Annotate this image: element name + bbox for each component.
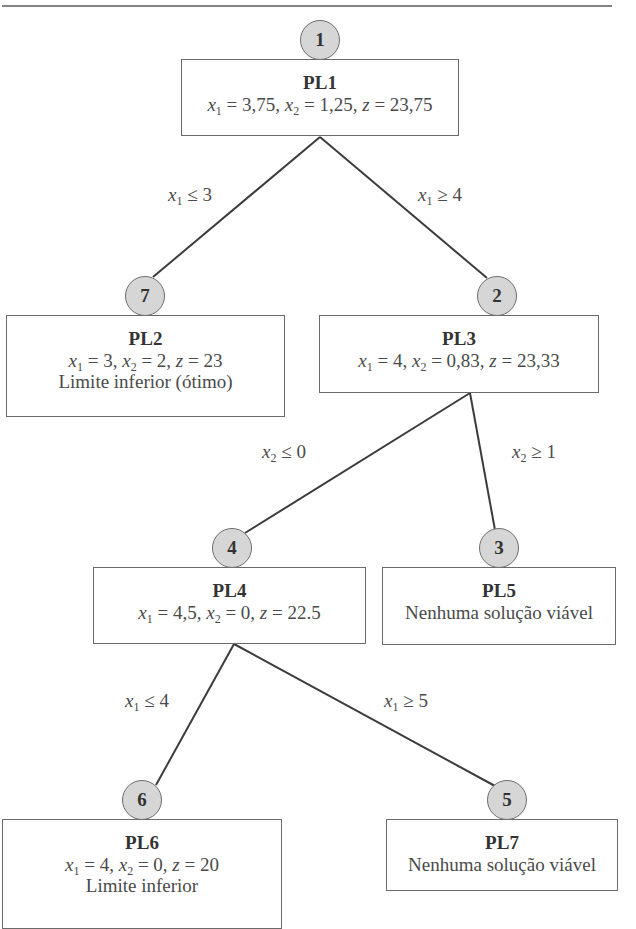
edge-op: ≤: [281, 441, 291, 462]
node-title: PL1: [182, 72, 458, 94]
order-badge-4: 4: [212, 528, 252, 568]
edge-op: ≥: [531, 441, 541, 462]
order-badge-7: 7: [125, 276, 165, 316]
edge-sub: 1: [426, 194, 432, 208]
node-title: PL6: [3, 832, 281, 854]
node-box-pl3: PL3 x1 = 4, x2 = 0,83, z = 23,33: [319, 315, 599, 393]
edge-pl1-pl3: [320, 137, 487, 278]
edge-op: ≥: [437, 184, 447, 205]
order-badge-1: 1: [300, 20, 340, 60]
edge-rhs: 1: [546, 441, 556, 462]
node-note: Limite inferior (ótimo): [7, 371, 284, 392]
edge-pl4-pl7: [234, 644, 495, 786]
edge-pl4-pl6: [156, 644, 234, 785]
edge-rhs: 3: [202, 184, 212, 205]
edge-rhs: 0: [296, 441, 306, 462]
edge-sub: 2: [270, 451, 276, 465]
edge-sub: 1: [392, 700, 398, 714]
node-box-pl1: PL1 x1 = 3,75, x2 = 1,25, z = 23,75: [181, 59, 459, 136]
node-box-pl4: PL4 x1 = 4,5, x2 = 0, z = 22.5: [93, 567, 366, 644]
edge-rhs: 4: [159, 690, 169, 711]
edge-sub: 1: [176, 194, 182, 208]
edge-label-pl4-pl6: x1 ≤ 4: [125, 690, 169, 712]
order-badge-6: 6: [122, 780, 162, 820]
node-box-pl5: PL5 Nenhuma solução viável: [382, 567, 616, 645]
node-title: PL4: [94, 580, 365, 602]
node-values: x1 = 4, x2 = 0, z = 20: [3, 854, 281, 875]
edge-sub: 1: [133, 700, 139, 714]
edge-rhs: 4: [452, 184, 462, 205]
edge-op: ≤: [187, 184, 197, 205]
edge-label-pl3-pl4: x2 ≤ 0: [262, 441, 306, 463]
edge-label-pl3-pl5: x2 ≥ 1: [512, 441, 556, 463]
node-title: PL2: [7, 328, 284, 350]
order-badge-2: 2: [477, 276, 517, 316]
node-values: x1 = 4,5, x2 = 0, z = 22.5: [94, 602, 365, 623]
node-title: PL7: [387, 832, 617, 854]
node-box-pl2: PL2 x1 = 3, x2 = 2, z = 23 Limite inferi…: [6, 315, 285, 417]
edge-sub: 2: [520, 451, 526, 465]
node-note: Nenhuma solução viável: [383, 602, 615, 623]
edge-rhs: 5: [418, 690, 428, 711]
node-title: PL3: [320, 328, 598, 350]
node-note: Limite inferior: [3, 875, 281, 896]
node-values: x1 = 3, x2 = 2, z = 23: [7, 350, 284, 371]
edge-label-pl1-pl2: x1 ≤ 3: [168, 184, 212, 206]
node-box-pl6: PL6 x1 = 4, x2 = 0, z = 20 Limite inferi…: [2, 819, 282, 929]
edge-pl3-pl5: [470, 393, 495, 530]
edge-op: ≥: [403, 690, 413, 711]
node-values: x1 = 3,75, x2 = 1,25, z = 23,75: [182, 94, 458, 115]
edge-op: ≤: [144, 690, 154, 711]
order-badge-3: 3: [479, 528, 519, 568]
edge-label-pl4-pl7: x1 ≥ 5: [384, 690, 428, 712]
node-values: x1 = 4, x2 = 0,83, z = 23,33: [320, 350, 598, 371]
edge-label-pl1-pl3: x1 ≥ 4: [418, 184, 462, 206]
node-note: Nenhuma solução viável: [387, 854, 617, 875]
node-box-pl7: PL7 Nenhuma solução viável: [386, 819, 618, 891]
node-title: PL5: [383, 580, 615, 602]
order-badge-5: 5: [487, 780, 527, 820]
